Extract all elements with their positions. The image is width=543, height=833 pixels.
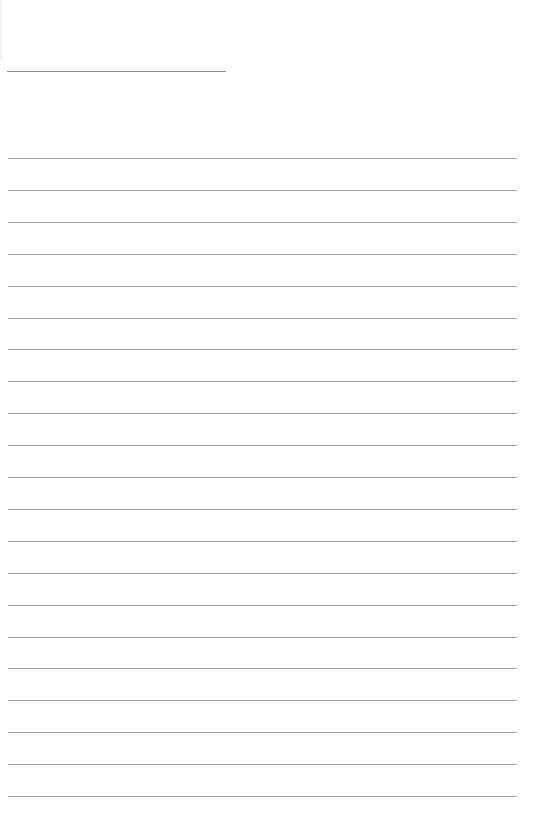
ruled-line — [8, 222, 517, 223]
ruled-line — [8, 668, 517, 669]
ruled-line — [8, 413, 517, 414]
ruled-line — [8, 477, 517, 478]
ruled-line — [8, 796, 517, 797]
ruled-line — [8, 381, 517, 382]
ruled-line — [8, 158, 517, 159]
ruled-line — [8, 573, 517, 574]
ruled-line — [8, 190, 517, 191]
ruled-line — [8, 732, 517, 733]
ruled-line — [8, 509, 517, 510]
ruled-line — [8, 637, 517, 638]
ruled-line — [8, 286, 517, 287]
page-edge-shadow — [0, 0, 4, 60]
ruled-line — [8, 349, 517, 350]
ruled-line — [8, 700, 517, 701]
ruled-line — [8, 318, 517, 319]
ruled-line — [8, 605, 517, 606]
ruled-line — [8, 541, 517, 542]
ruled-line — [8, 764, 517, 765]
ruled-line — [8, 254, 517, 255]
ruled-line — [8, 445, 517, 446]
title-line — [7, 71, 226, 72]
